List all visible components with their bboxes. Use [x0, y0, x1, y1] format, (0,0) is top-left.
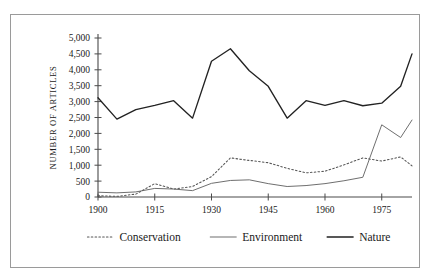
y-tick-label: 4,500 — [69, 49, 91, 59]
y-tick-label: 2,500 — [69, 113, 91, 123]
y-axis-title: NUMBER OF ARTICLES — [48, 66, 58, 170]
x-tick-label: 1900 — [89, 205, 108, 215]
legend-label-environment: Environment — [242, 231, 303, 243]
x-tick-label: 1930 — [202, 205, 221, 215]
chart-legend: ConservationEnvironmentNature — [87, 231, 390, 243]
y-tick-label: 1,500 — [69, 145, 91, 155]
y-tick-label: 500 — [76, 177, 91, 187]
y-tick-label: 3,500 — [69, 81, 91, 91]
legend-label-nature: Nature — [359, 231, 390, 243]
y-tick-label: 4,000 — [69, 65, 91, 75]
figure-frame: 05001,0001,5002,0002,5003,0003,5004,0004… — [10, 14, 420, 268]
y-tick-label: 3,000 — [69, 97, 91, 107]
y-tick-label: 2,000 — [69, 129, 91, 139]
legend-label-conservation: Conservation — [119, 231, 181, 243]
series-line-environment — [98, 120, 412, 193]
x-tick-label: 1945 — [259, 205, 278, 215]
y-tick-label: 0 — [85, 192, 90, 202]
series-line-nature — [98, 49, 412, 119]
line-chart: 05001,0001,5002,0002,5003,0003,5004,0004… — [11, 15, 419, 267]
y-tick-label: 5,000 — [69, 33, 91, 43]
y-tick-label: 1,000 — [69, 161, 91, 171]
x-tick-label: 1960 — [315, 205, 334, 215]
x-tick-label: 1975 — [372, 205, 391, 215]
x-tick-label: 1915 — [145, 205, 164, 215]
